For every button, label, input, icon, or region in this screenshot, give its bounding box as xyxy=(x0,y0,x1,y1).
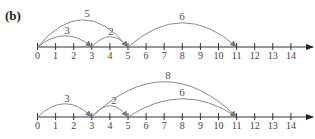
number-line-figure: (b) 012345678910111213143256 01234567891… xyxy=(0,0,315,139)
jump-arc xyxy=(38,36,91,47)
tick-label: 3 xyxy=(89,120,94,131)
tick-label: 5 xyxy=(126,120,131,131)
tick-label: 8 xyxy=(180,50,185,61)
jump-label: 3 xyxy=(64,92,70,104)
tick-label: 8 xyxy=(180,120,185,131)
jump-label: 6 xyxy=(179,86,185,98)
tick-label: 13 xyxy=(268,50,278,61)
tick-label: 9 xyxy=(198,50,203,61)
tick-label: 12 xyxy=(250,50,260,61)
jump-label: 8 xyxy=(165,69,171,81)
tick-label: 4 xyxy=(107,120,112,131)
tick-label: 5 xyxy=(126,50,131,61)
tick-label: 10 xyxy=(214,50,224,61)
jump-label: 2 xyxy=(108,25,114,37)
tick-label: 14 xyxy=(286,50,296,61)
jump-arc xyxy=(38,104,91,117)
tick-label: 6 xyxy=(144,50,149,61)
tick-label: 10 xyxy=(214,120,224,131)
tick-label: 7 xyxy=(162,50,167,61)
tick-label: 0 xyxy=(35,120,40,131)
bottom-number-line: 012345678910111213143286 xyxy=(35,69,313,131)
tick-label: 14 xyxy=(286,120,296,131)
tick-label: 6 xyxy=(144,120,149,131)
tick-label: 12 xyxy=(250,120,260,131)
top-number-line: 012345678910111213143256 xyxy=(35,7,313,61)
tick-label: 9 xyxy=(198,120,203,131)
tick-label: 4 xyxy=(107,50,112,61)
jump-arc xyxy=(92,82,236,117)
tick-label: 2 xyxy=(71,120,76,131)
panel-label: (b) xyxy=(5,8,21,24)
tick-label: 7 xyxy=(162,120,167,131)
jump-label: 6 xyxy=(179,10,185,22)
number-line-canvas: 012345678910111213143256 012345678910111… xyxy=(0,0,315,139)
tick-label: 11 xyxy=(232,50,242,61)
jump-label: 3 xyxy=(64,24,70,36)
tick-label: 3 xyxy=(89,50,94,61)
tick-label: 2 xyxy=(71,50,76,61)
tick-label: 1 xyxy=(53,50,58,61)
tick-label: 1 xyxy=(53,120,58,131)
jump-label: 5 xyxy=(84,7,90,19)
tick-label: 13 xyxy=(268,120,278,131)
tick-label: 11 xyxy=(232,120,242,131)
tick-label: 0 xyxy=(35,50,40,61)
